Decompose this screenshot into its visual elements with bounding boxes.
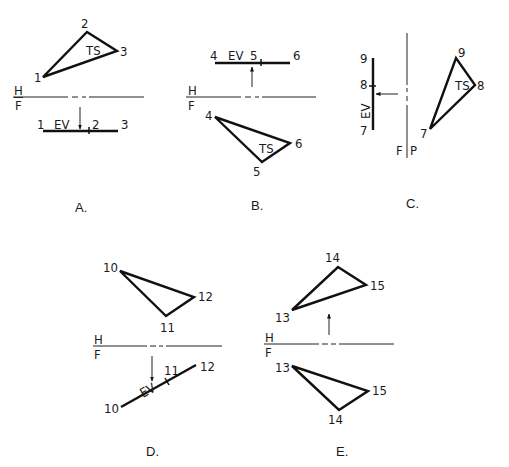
ev-point-label-10: 10 <box>104 401 119 416</box>
fold-label-f: F <box>396 143 403 158</box>
panel-c: 9 8 7 EV F P 9 8 7 TS C. <box>358 33 484 211</box>
ev-point-label-9: 9 <box>360 51 367 66</box>
ev-point-label-8: 8 <box>360 77 367 92</box>
triangle-true-shape <box>430 58 475 129</box>
ev-label: EV <box>54 117 69 132</box>
panel-b: 4 EV 5 6 H F 4 5 6 TS B. <box>186 48 316 213</box>
panel-a: 1 2 3 TS H F 1 EV 2 3 A. <box>13 16 144 215</box>
point-label-11: 11 <box>160 320 175 335</box>
triangle <box>120 271 194 316</box>
point-label-15-bottom: 15 <box>372 383 387 398</box>
fold-label-f: F <box>265 345 272 360</box>
fold-label-p: P <box>410 143 417 158</box>
point-label-14-bottom: 14 <box>328 412 343 427</box>
point-label-8: 8 <box>477 78 484 93</box>
ts-label: TS <box>85 43 101 58</box>
ev-point-label-7: 7 <box>360 123 367 138</box>
point-label-10: 10 <box>103 260 118 275</box>
panel-caption: A. <box>75 200 87 215</box>
ev-point-label-11: 11 <box>164 363 179 378</box>
fold-label-h: H <box>14 83 23 98</box>
point-label-1: 1 <box>34 70 41 85</box>
point-label-7: 7 <box>420 126 427 141</box>
fold-label-f: F <box>94 347 101 362</box>
point-label-13-bottom: 13 <box>275 360 290 375</box>
ev-label: EV <box>228 48 243 63</box>
fold-label-h: H <box>188 83 197 98</box>
panel-e: 13 14 15 H F 13 14 15 E. <box>264 250 394 459</box>
fold-label-h: H <box>94 332 103 347</box>
ev-label: EV <box>358 104 373 119</box>
point-label-5: 5 <box>253 164 260 179</box>
point-label-14-top: 14 <box>325 250 340 265</box>
ev-point-label-12: 12 <box>200 359 215 374</box>
panel-caption: C. <box>406 196 419 211</box>
triangle-true-shape <box>215 117 290 162</box>
ts-label: TS <box>258 141 274 156</box>
point-label-4: 4 <box>205 108 212 123</box>
ev-point-label-3: 3 <box>121 117 128 132</box>
point-label-15-top: 15 <box>370 278 385 293</box>
point-label-3: 3 <box>120 44 127 59</box>
descriptive-geometry-figure: 1 2 3 TS H F 1 EV 2 3 A. 4 EV 5 6 <box>0 0 509 467</box>
edge-view-line <box>121 365 196 407</box>
fold-line <box>13 97 144 98</box>
fold-label-f: F <box>188 98 195 113</box>
ts-label: TS <box>454 78 470 93</box>
ev-point-label-5: 5 <box>250 48 257 63</box>
panel-d: 10 11 12 H F 10 11 12 EV D. <box>93 260 222 459</box>
point-label-13-top: 13 <box>275 310 290 325</box>
ev-point-label-1: 1 <box>37 117 44 132</box>
point-label-12: 12 <box>198 289 213 304</box>
top-triangle <box>292 267 366 310</box>
point-label-6: 6 <box>295 136 302 151</box>
panel-caption: E. <box>336 444 348 459</box>
bottom-triangle <box>292 366 368 410</box>
point-label-9: 9 <box>458 45 465 60</box>
panel-caption: D. <box>146 444 159 459</box>
point-label-2: 2 <box>81 16 88 31</box>
triangle-true-shape <box>43 32 117 77</box>
ev-point-label-4: 4 <box>210 48 217 63</box>
panel-caption: B. <box>251 198 263 213</box>
ev-point-label-2: 2 <box>92 117 99 132</box>
fold-label-f: F <box>15 98 22 113</box>
ev-point-label-6: 6 <box>293 48 300 63</box>
fold-label-h: H <box>265 330 274 345</box>
